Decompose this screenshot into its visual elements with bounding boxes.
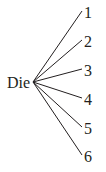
tree-diagram: Die 1 2 3 4 5 6 xyxy=(0,0,106,172)
leaf-label-4: 4 xyxy=(84,91,92,108)
leaf-label-1: 1 xyxy=(84,4,92,21)
leaf-label-5: 5 xyxy=(84,120,92,137)
leaf-label-3: 3 xyxy=(84,62,92,79)
branch-line-5 xyxy=(33,82,82,127)
leaf-label-6: 6 xyxy=(84,148,92,165)
root-label: Die xyxy=(7,74,30,91)
leaf-label-2: 2 xyxy=(84,33,92,50)
branch-line-6 xyxy=(33,82,82,155)
branch-line-4 xyxy=(33,82,82,98)
branch-lines xyxy=(33,11,82,155)
leaf-labels: 1 2 3 4 5 6 xyxy=(84,4,92,165)
